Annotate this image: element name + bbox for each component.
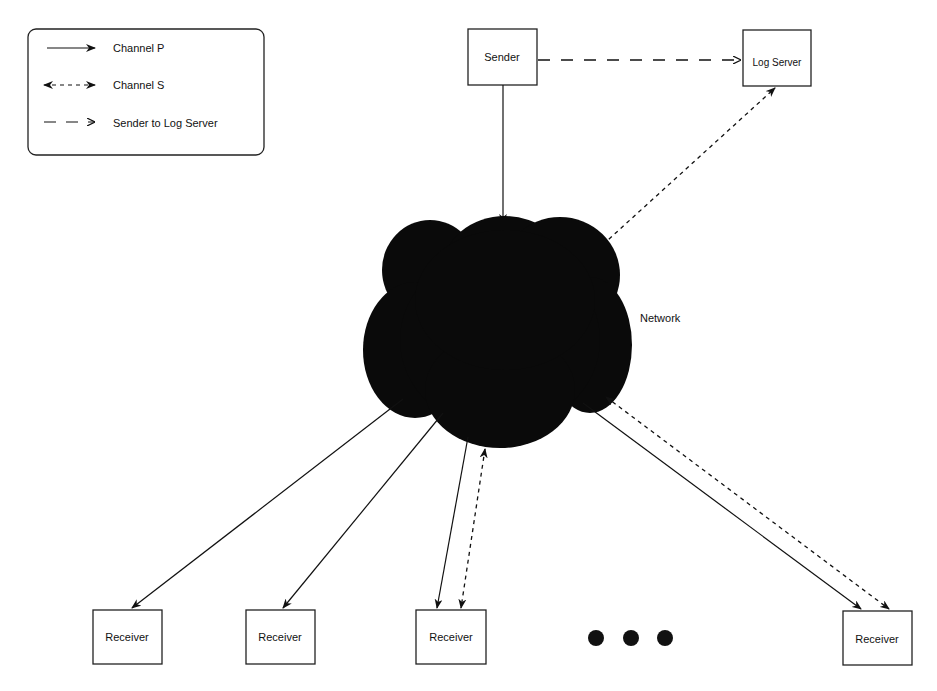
network-log-server-channel-s [597,88,775,250]
receiver-label: Receiver [105,631,149,643]
receiver-node-3: Receiver [416,610,486,664]
ellipsis-dots-icon [588,630,673,646]
receiver-label: Receiver [258,631,302,643]
legend-label-channel-s: Channel S [113,79,164,91]
network-to-receiver-2-arrow [283,413,443,608]
log-server-label: Log Server [753,57,803,68]
network-to-receiver-1-arrow [132,399,403,608]
network-to-receiver-4-arrow [583,403,861,609]
network-to-receiver-3-arrow [437,437,468,608]
receiver-label: Receiver [429,631,473,643]
receiver-node-4: Receiver [843,611,912,665]
network-receiver-3-channel-s [461,449,485,608]
legend: Channel P Channel S Sender to Log Server [28,29,264,155]
network-label: Network [640,312,681,324]
receiver-node-1: Receiver [93,610,162,664]
receiver-label: Receiver [855,633,899,645]
log-server-node: Log Server [743,30,811,86]
network-cloud-icon [363,216,632,448]
network-receiver-4-channel-s [606,397,889,609]
receiver-node-2: Receiver [246,610,315,664]
sender-node: Sender [468,29,537,85]
legend-label-sender-to-log-server: Sender to Log Server [113,117,218,129]
network-diagram: Channel P Channel S Sender to Log Server… [0,0,937,691]
sender-label: Sender [484,51,520,63]
legend-label-channel-p: Channel P [113,42,164,54]
